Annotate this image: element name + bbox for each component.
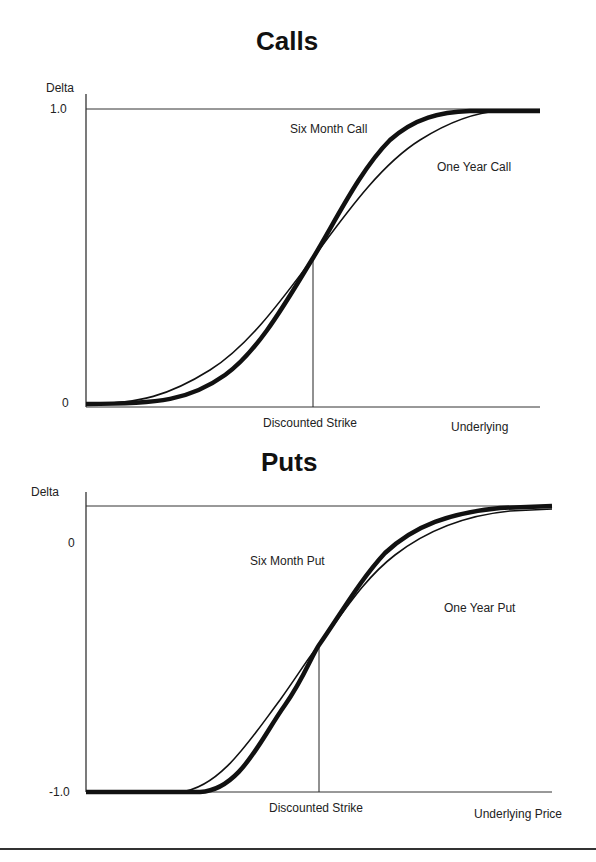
page-bottom-rule bbox=[0, 848, 596, 850]
puts-chart bbox=[0, 0, 596, 862]
